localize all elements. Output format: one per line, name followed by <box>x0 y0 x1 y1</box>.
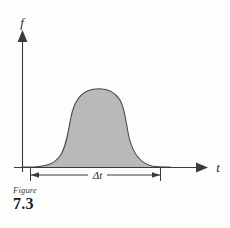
y-axis-label: f <box>20 15 26 30</box>
figure-caption: Figure 7.3 <box>13 186 103 212</box>
y-axis-arrowhead <box>18 30 28 42</box>
figure-caption-number: 7.3 <box>13 196 103 212</box>
x-axis-arrowhead <box>196 163 208 173</box>
dimension-label: Δt <box>92 169 103 181</box>
figure-panel: Δt f t Figure 7.3 <box>0 0 230 228</box>
figure-caption-word: Figure <box>13 186 103 195</box>
pulse-area <box>22 89 170 167</box>
x-axis-label: t <box>216 160 220 175</box>
dimension-arrow-left <box>31 172 39 178</box>
dimension-arrow-right <box>152 172 160 178</box>
